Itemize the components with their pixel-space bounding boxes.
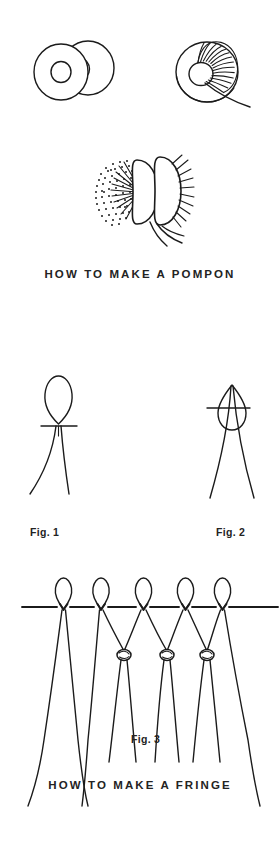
pompon-fluff-stipple — [95, 160, 134, 226]
fringe-knot-3 — [193, 650, 220, 763]
illustration-page: HOW TO MAKE A POMPON Fig. 1 Fig. 2 Fig. … — [0, 0, 280, 842]
fringe-knot-1 — [109, 650, 136, 763]
figure-label-1: Fig. 1 — [30, 526, 59, 538]
cut-strands-left — [111, 162, 138, 219]
cut-pompon-between-rings-illustration — [95, 155, 194, 246]
ring-wound-with-yarn-illustration — [176, 42, 250, 107]
figure-label-2: Fig. 2 — [216, 526, 245, 538]
fig3-fringe-illustration — [22, 578, 278, 806]
pompon-caption: HOW TO MAKE A POMPON — [0, 268, 280, 280]
cut-strands-right — [172, 155, 194, 227]
two-cardboard-rings-illustration — [34, 41, 114, 100]
fig2-illustration — [207, 385, 254, 498]
line-art-illustrations — [0, 0, 280, 842]
fringe-loop-1 — [28, 578, 88, 806]
fringe-loop-5 — [207, 578, 260, 806]
fringe-loop-4 — [167, 578, 207, 651]
fig1-illustration — [30, 376, 77, 494]
figure-label-3: Fig. 3 — [131, 733, 160, 745]
fringe-knot-2 — [155, 650, 179, 763]
fringe-loop-2 — [82, 578, 124, 806]
fringe-loop-3 — [124, 578, 167, 651]
fringe-caption: HOW TO MAKE A FRINGE — [0, 779, 280, 791]
